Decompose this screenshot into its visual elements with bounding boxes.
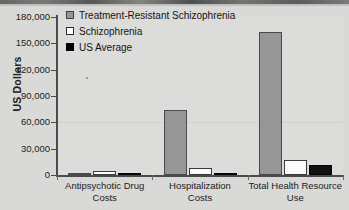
y-axis-tick bbox=[51, 96, 57, 97]
y-axis-tick bbox=[51, 149, 57, 150]
bar bbox=[309, 165, 332, 175]
category-label-line: Use bbox=[248, 192, 343, 204]
bar-chart: US Dollars 030,00060,00090,000120,000150… bbox=[0, 0, 349, 210]
x-axis-end-tick bbox=[343, 175, 344, 180]
y-axis-tick-label: 120,000 bbox=[0, 64, 50, 75]
legend-item: Treatment-Resistant Schizophrenia bbox=[66, 8, 235, 22]
category-label-line: Antipsychotic Drug bbox=[57, 180, 152, 192]
y-axis-tick bbox=[51, 70, 57, 71]
legend-label: Schizophrenia bbox=[79, 26, 142, 37]
legend-swatch-us-average-icon bbox=[66, 43, 74, 51]
category-label-line: Costs bbox=[57, 192, 152, 204]
scan-artifact-strip-secondary bbox=[0, 4, 349, 6]
y-axis-tick bbox=[51, 17, 57, 18]
legend-swatch-trs-icon bbox=[66, 11, 74, 19]
x-axis-category-label: Antipsychotic DrugCosts bbox=[57, 180, 152, 203]
y-axis-tick-label: 90,000 bbox=[0, 90, 50, 101]
y-axis-tick-label: 60,000 bbox=[0, 116, 50, 127]
bar bbox=[93, 171, 116, 175]
y-axis-tick bbox=[51, 122, 57, 123]
bar bbox=[259, 32, 282, 175]
bar bbox=[214, 173, 237, 176]
legend-item: US Average bbox=[66, 40, 235, 54]
faint-gridline bbox=[57, 122, 343, 123]
legend-item: Schizophrenia bbox=[66, 24, 235, 38]
scan-speck bbox=[86, 77, 88, 79]
legend-swatch-schizophrenia-icon bbox=[66, 27, 74, 35]
y-axis-tick bbox=[51, 43, 57, 44]
y-axis-tick-label: 180,000 bbox=[0, 11, 50, 22]
bar bbox=[164, 110, 187, 175]
legend-label: US Average bbox=[79, 42, 132, 53]
chart-legend: Treatment-Resistant Schizophrenia Schizo… bbox=[66, 8, 235, 56]
bar bbox=[284, 160, 307, 175]
category-label-line: Costs bbox=[152, 192, 247, 204]
bar bbox=[68, 173, 91, 176]
category-label-line: Total Health Resource bbox=[248, 180, 343, 192]
bar bbox=[189, 168, 212, 175]
x-axis-category-label: HospitalizationCosts bbox=[152, 180, 247, 203]
bar bbox=[118, 173, 141, 176]
y-axis-tick-label: 0 bbox=[0, 169, 50, 180]
category-label-line: Hospitalization bbox=[152, 180, 247, 192]
legend-label: Treatment-Resistant Schizophrenia bbox=[79, 10, 235, 21]
y-axis-tick-label: 150,000 bbox=[0, 37, 50, 48]
y-axis-tick-label: 30,000 bbox=[0, 143, 50, 154]
x-axis-category-label: Total Health ResourceUse bbox=[248, 180, 343, 203]
x-axis-line bbox=[56, 175, 344, 177]
